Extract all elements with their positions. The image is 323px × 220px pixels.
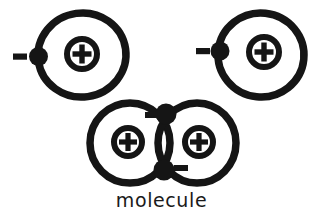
- electron-dot-left-atom: [29, 47, 48, 66]
- electron-dot-right-atom: [211, 42, 230, 61]
- figure-canvas: molecule: [0, 0, 323, 220]
- minus-sign-right-atom: [196, 48, 210, 54]
- molecule-caption: molecule: [0, 188, 323, 212]
- plus-icon-molecule-left: [119, 133, 137, 151]
- shared-electron-bottom: [154, 160, 175, 181]
- plus-icon-right-atom: [255, 43, 274, 62]
- minus-sign-left-atom: [13, 54, 27, 60]
- plus-icon-left-atom: [73, 45, 92, 64]
- plus-icon-molecule-right: [190, 133, 208, 151]
- minus-sign-shared-top: [145, 112, 159, 118]
- atom-molecule-diagram: [0, 0, 323, 220]
- atom-right: [196, 9, 308, 102]
- molecule-group: [90, 103, 236, 183]
- minus-sign-shared-bottom: [174, 165, 188, 171]
- atom-left: [13, 7, 131, 102]
